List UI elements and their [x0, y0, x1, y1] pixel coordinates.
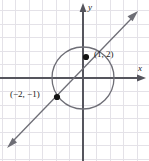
- x-axis-label: x: [138, 63, 142, 73]
- y-axis-arrowhead: [80, 3, 87, 12]
- point-label-p2: (−2, −1): [10, 89, 40, 99]
- y-axis-label: y: [88, 2, 92, 12]
- graph-canvas: [0, 0, 149, 161]
- line-arrowhead-upper-right: [128, 11, 139, 21]
- point-label-p1: (1, 2): [94, 49, 114, 59]
- point-marker-p2: [54, 94, 60, 100]
- x-axis-arrowhead: [137, 75, 146, 82]
- point-marker-p1: [83, 54, 89, 60]
- graph-figure: (1, 2) (−2, −1) x y: [0, 0, 149, 161]
